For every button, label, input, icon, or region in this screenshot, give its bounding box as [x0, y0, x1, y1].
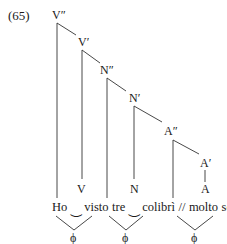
phonological-phrase-brackets [56, 216, 213, 230]
syntax-tree-diagram: (65) V″ V′ N″ N′ A″ A′ A V N Ho ‿ visto … [0, 0, 227, 244]
node-v-double-bar: V″ [52, 8, 66, 22]
liaison-1: ‿ [70, 203, 83, 217]
node-n: N [130, 182, 139, 196]
phi-3: ϕ [191, 231, 197, 244]
node-v-bar: V′ [78, 35, 90, 49]
node-a-double-bar: A″ [164, 124, 178, 138]
node-n-double-bar: N″ [100, 63, 114, 77]
word-ho: Ho [52, 200, 67, 214]
boundary-mark: // [178, 200, 185, 214]
word-tre: tre [112, 200, 126, 214]
phi-1: ϕ [70, 231, 76, 244]
phi-2: ϕ [122, 231, 128, 244]
word-scuri: scuri [222, 200, 227, 214]
word-molto-visible: molto [189, 200, 218, 214]
liaison-2: ‿ [128, 203, 141, 217]
tree-branches [57, 23, 205, 198]
node-n-bar: N′ [129, 91, 141, 105]
node-v: V [77, 182, 86, 196]
word-visto: visto [84, 200, 108, 214]
sentence: Ho ‿ visto tre ‿ colibrì // molto [52, 200, 186, 217]
word-colibri: colibrì [142, 200, 175, 214]
node-a-bar: A′ [200, 156, 212, 170]
node-a: A [201, 182, 210, 196]
example-number: (65) [8, 8, 30, 23]
